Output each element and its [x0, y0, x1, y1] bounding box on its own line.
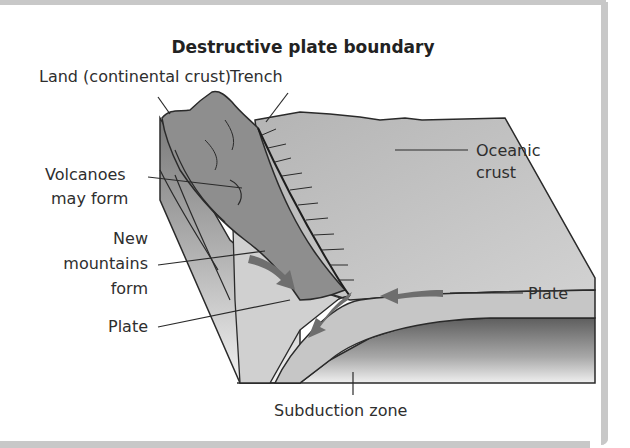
label-mountains-line2: mountains	[40, 254, 148, 274]
label-volcanoes-line1: Volcanoes	[45, 165, 126, 185]
label-oceanic-crust-line1: Oceanic	[476, 141, 540, 161]
label-volcanoes-line2: may form	[51, 189, 128, 209]
label-subduction-zone: Subduction zone	[274, 401, 407, 421]
label-land-continental-crust: Land (continental crust)	[39, 67, 231, 87]
label-mountains-line1: New	[40, 229, 148, 249]
label-oceanic-crust-line2: crust	[476, 163, 516, 183]
label-trench: Trench	[230, 67, 283, 87]
label-mountains-line3: form	[40, 279, 148, 299]
label-plate-right: Plate	[528, 284, 568, 304]
label-plate-left: Plate	[40, 317, 148, 337]
